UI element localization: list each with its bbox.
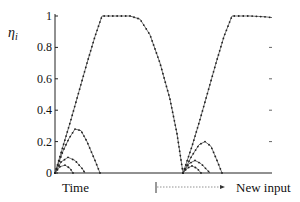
ytick-0.8: 0.8 [37,40,52,54]
new-input-label: New input [236,180,291,195]
ytick-1: 1 [46,9,52,23]
y-axis-label: ηi [8,25,18,42]
series-layer [54,15,272,174]
chart-canvas: ηi 0 0.2 0.4 0.6 0.8 1 Time New input [0,0,300,202]
ytick-0.2: 0.2 [37,135,52,149]
ytick-0.6: 0.6 [37,72,52,86]
series-2 [54,156,85,174]
ytick-0.4: 0.4 [37,103,52,117]
new-input-arrow [156,182,225,193]
series-0 [54,15,272,174]
y-tick-labels: 0 0.2 0.4 0.6 0.8 1 [37,9,52,180]
y-ticks [55,16,272,173]
ytick-0: 0 [46,166,52,180]
series-1 [54,128,101,174]
x-axis-label: Time [62,180,89,195]
